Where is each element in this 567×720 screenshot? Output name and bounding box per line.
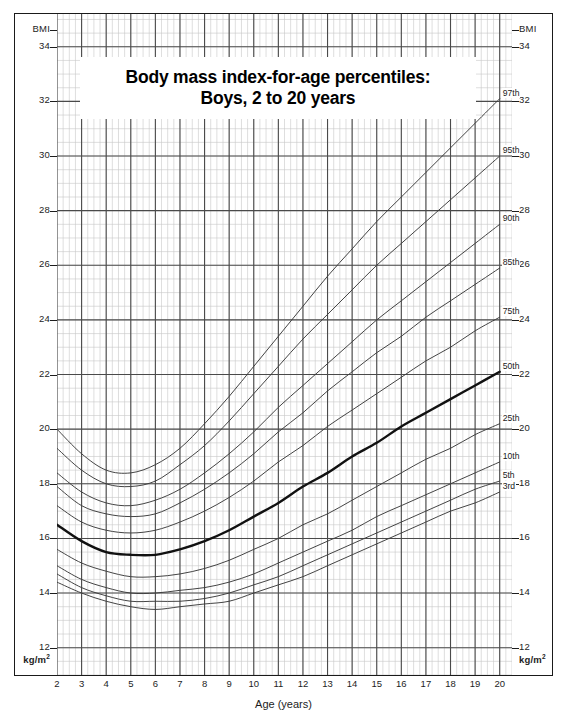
y-axis-right-label-20: 20 [519, 422, 553, 433]
y-axis-right-label-26: 26 [519, 258, 553, 269]
x-axis-label-14: 14 [347, 678, 358, 689]
y-axis-tick [50, 429, 57, 430]
percentile-label-25th: 25th [502, 413, 521, 423]
y-axis-left-label-26: 26 [14, 258, 50, 269]
x-axis-label-5: 5 [128, 678, 133, 689]
chart-title-line-1: Body mass index-for-age percentiles: [126, 67, 431, 88]
y-axis-tick [50, 101, 57, 102]
x-axis-title: Age (years) [0, 698, 567, 710]
chart-title: Body mass index-for-age percentiles: Boy… [80, 57, 476, 119]
y-axis-right-label-28: 28 [519, 204, 553, 215]
y-axis-left-label-bmi: BMI [14, 23, 50, 34]
x-axis-label-11: 11 [273, 678, 283, 689]
y-axis-tick [50, 47, 57, 48]
y-axis-right [511, 13, 553, 676]
y-axis-tick [50, 30, 57, 31]
y-axis-left-label-12: 12 [14, 641, 50, 652]
y-axis-left-label-34: 34 [14, 40, 50, 51]
y-axis-left-label-24: 24 [14, 313, 50, 324]
y-axis-right-label-12: 12 [519, 641, 553, 652]
y-axis-left-label-14: 14 [14, 586, 50, 597]
y-axis-tick [50, 375, 57, 376]
y-axis-right-label-30: 30 [519, 149, 553, 160]
y-axis-tick [512, 648, 519, 649]
y-axis-left-label-20: 20 [14, 422, 50, 433]
y-axis-right-label-32: 32 [519, 94, 553, 105]
y-axis-right-label-22: 22 [519, 368, 553, 379]
x-axis-label-18: 18 [445, 678, 456, 689]
x-axis-labels: 234567891011121314151617181920 [57, 678, 512, 694]
x-axis-label-10: 10 [248, 678, 259, 689]
y-axis-right-label-14: 14 [519, 586, 553, 597]
percentile-label-5th: 5th [502, 470, 516, 480]
y-axis-tick [512, 593, 519, 594]
x-axis-label-7: 7 [177, 678, 182, 689]
y-axis-left-label-22: 22 [14, 368, 50, 379]
y-axis-tick [50, 211, 57, 212]
y-axis-right-label-16: 16 [519, 531, 553, 542]
y-axis-tick [512, 538, 519, 539]
bmi-growth-chart: 1212141416161818202022222424262628283030… [0, 0, 567, 720]
y-axis-tick [50, 538, 57, 539]
y-axis-tick [512, 30, 519, 31]
y-axis-tick [512, 375, 519, 376]
x-axis-label-4: 4 [104, 678, 109, 689]
x-axis-label-3: 3 [79, 678, 84, 689]
y-axis-tick [512, 429, 519, 430]
y-axis-tick [512, 47, 519, 48]
y-axis-tick [512, 101, 519, 102]
y-axis-left-label-30: 30 [14, 149, 50, 160]
y-axis-tick [50, 156, 57, 157]
y-axis-left-label-28: 28 [14, 204, 50, 215]
percentile-label-10th: 10th [502, 451, 521, 461]
y-axis-tick [512, 156, 519, 157]
x-axis-label-20: 20 [494, 678, 505, 689]
chart-title-line-2: Boys, 2 to 20 years [201, 88, 356, 109]
x-axis-label-15: 15 [371, 678, 382, 689]
y-axis-left-label-32: 32 [14, 94, 50, 105]
y-axis-left-label-18: 18 [14, 477, 50, 488]
x-axis-label-9: 9 [227, 678, 232, 689]
y-axis-tick [50, 320, 57, 321]
y-axis-right-label-bmi: BMI [519, 23, 553, 34]
y-axis-left [14, 13, 58, 676]
x-axis-label-8: 8 [202, 678, 207, 689]
y-axis-tick [50, 593, 57, 594]
percentile-label-97th: 97th [502, 88, 521, 98]
y-axis-right-label-34: 34 [519, 40, 553, 51]
y-axis-tick [512, 211, 519, 212]
y-axis-tick [50, 265, 57, 266]
x-axis-label-17: 17 [421, 678, 432, 689]
y-axis-tick [50, 484, 57, 485]
x-axis-label-6: 6 [153, 678, 158, 689]
x-axis-label-16: 16 [396, 678, 407, 689]
percentile-label-90th: 90th [502, 213, 521, 223]
y-axis-right-label-18: 18 [519, 477, 553, 488]
x-axis-label-19: 19 [470, 678, 481, 689]
y-axis-tick [50, 648, 57, 649]
percentile-label-75th: 75th [502, 306, 521, 316]
y-axis-right-label-24: 24 [519, 313, 553, 324]
percentile-label-50th: 50th [502, 361, 521, 371]
y-axis-left-label-16: 16 [14, 531, 50, 542]
percentile-label-95th: 95th [502, 145, 521, 155]
x-axis-label-13: 13 [322, 678, 333, 689]
y-axis-left-unit: kg/m2 [14, 653, 50, 665]
x-axis-label-12: 12 [298, 678, 309, 689]
x-axis-label-2: 2 [54, 678, 59, 689]
y-axis-right-unit: kg/m2 [519, 653, 553, 665]
percentile-label-3rd: 3rd [502, 481, 516, 491]
percentile-label-85th: 85th [502, 257, 521, 267]
y-axis-tick [512, 320, 519, 321]
